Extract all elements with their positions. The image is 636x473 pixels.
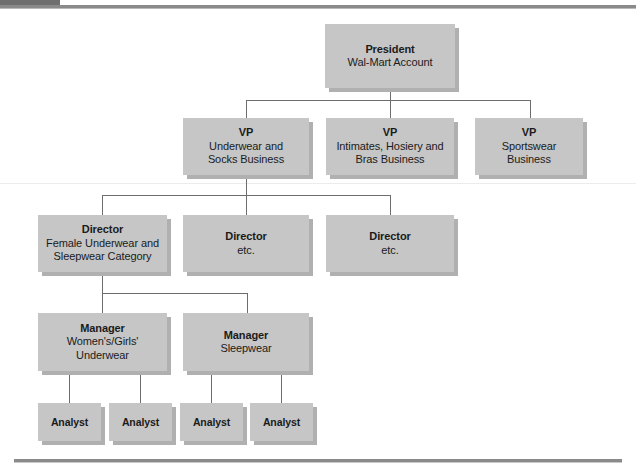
node-analyst-3[interactable]: Analyst [180, 403, 243, 441]
connector-vp1-stem [246, 175, 247, 195]
connector-manager2-riser [247, 293, 248, 313]
node-title: VP [239, 126, 253, 139]
connector-vp-bus [246, 100, 531, 101]
node-title: VP [383, 126, 397, 139]
footer-rule-thin [14, 462, 622, 463]
node-vp-underwear-socks[interactable]: VP Underwear and Socks Business [183, 118, 309, 175]
node-title: President [365, 43, 414, 56]
node-title: Manager [80, 322, 125, 335]
node-title: Analyst [51, 416, 88, 429]
node-title: Analyst [263, 416, 300, 429]
connector-manager1-riser [102, 293, 103, 313]
node-title: Director [225, 230, 266, 243]
node-director-female-underwear-sleepwear[interactable]: Director Female Underwear and Sleepwear … [38, 215, 167, 272]
node-vp-intimates-hosiery-bras[interactable]: VP Intimates, Hosiery and Bras Business [326, 118, 454, 175]
node-analyst-1[interactable]: Analyst [38, 403, 101, 441]
connector-analyst3-stem [211, 371, 212, 403]
connector-director1-riser [102, 195, 103, 215]
connector-director1-stem [102, 272, 103, 294]
connector-analyst1-stem [69, 371, 70, 403]
connector-director3-riser [390, 195, 391, 215]
node-title: Analyst [193, 416, 230, 429]
node-subtitle: Intimates, Hosiery and Bras Business [336, 140, 443, 167]
node-manager-womens-girls-underwear[interactable]: Manager Women's/Girls' Underwear [38, 313, 167, 371]
node-analyst-4[interactable]: Analyst [250, 403, 313, 441]
node-manager-sleepwear[interactable]: Manager Sleepwear [183, 313, 309, 371]
node-subtitle: Sleepwear [220, 342, 271, 355]
node-title: Director [82, 223, 123, 236]
connector-analyst4-stem [281, 371, 282, 403]
node-subtitle: Women's/Girls' Underwear [67, 335, 139, 362]
node-subtitle: etc. [237, 244, 254, 257]
page-fold-line [0, 183, 636, 184]
connector-director2-riser [246, 195, 247, 215]
node-vp-sportswear[interactable]: VP Sportswear Business [475, 118, 583, 175]
node-subtitle: Sportswear Business [502, 140, 557, 167]
org-chart-page: President Wal-Mart Account VP Underwear … [0, 0, 636, 473]
node-subtitle: Female Underwear and Sleepwear Category [46, 237, 159, 264]
node-director-3[interactable]: Director etc. [326, 215, 454, 272]
connector-analyst2-stem [140, 371, 141, 403]
node-subtitle: Underwear and Socks Business [208, 140, 284, 167]
node-subtitle: Wal-Mart Account [348, 56, 433, 69]
connector-vp1-riser [246, 100, 247, 118]
node-title: Manager [224, 329, 269, 342]
node-president[interactable]: President Wal-Mart Account [325, 24, 455, 88]
header-rule-thin [0, 8, 636, 9]
connector-manager-bus [102, 293, 248, 294]
connector-vp2-riser [390, 100, 391, 118]
connector-vp3-riser [530, 100, 531, 118]
node-title: Director [369, 230, 410, 243]
node-title: Analyst [122, 416, 159, 429]
node-analyst-2[interactable]: Analyst [109, 403, 172, 441]
node-director-2[interactable]: Director etc. [183, 215, 309, 272]
node-subtitle: etc. [381, 244, 398, 257]
node-title: VP [522, 126, 536, 139]
